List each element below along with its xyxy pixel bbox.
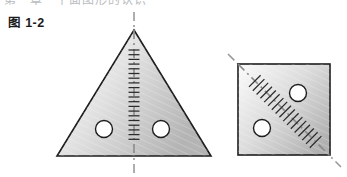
triangle-hole-right — [153, 121, 170, 138]
square-hole-upper-right — [290, 85, 307, 102]
triangle-shape-group — [57, 12, 211, 174]
triangle-hole-left — [96, 121, 113, 138]
square-shape-group — [228, 54, 341, 167]
figure-page: 第一章 平面图形的认识 图 1-2 — [0, 0, 347, 177]
figure-illustration — [0, 0, 347, 177]
square-hole-lower-left — [254, 120, 271, 137]
